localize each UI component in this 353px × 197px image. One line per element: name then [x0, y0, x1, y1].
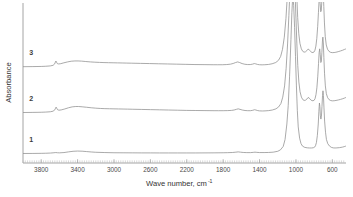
- curve-label-1: 1: [29, 136, 33, 143]
- spectrum-curve-2: [23, 0, 346, 113]
- x-axis-tick-label: 3400: [70, 166, 85, 173]
- x-axis-tick-label: 2200: [180, 166, 195, 173]
- x-axis-tick-label: 1000: [289, 166, 304, 173]
- spectrum-curve-1: [23, 0, 346, 153]
- x-axis-title-superscript: -1: [208, 178, 213, 184]
- x-axis-tick-label: 1800: [216, 166, 231, 173]
- x-axis-tick-label: 600: [327, 166, 338, 173]
- curve-labels-group: 321: [29, 49, 33, 143]
- y-axis-title-text: Absorbance: [4, 62, 13, 103]
- x-axis-title: Wave number, cm-1: [146, 178, 213, 188]
- ftir-spectrum-figure: 38003400300026002200180014001000600Wave …: [0, 0, 353, 197]
- x-axis-title-text: Wave number, cm: [146, 179, 207, 188]
- chart-canvas: 38003400300026002200180014001000600Wave …: [0, 0, 353, 197]
- curves-group: [23, 0, 346, 153]
- x-axis-tick-label: 2600: [143, 166, 158, 173]
- curve-label-2: 2: [29, 95, 33, 102]
- x-axis-tick-label: 3000: [107, 166, 122, 173]
- x-axis-tick-label: 3800: [34, 166, 49, 173]
- x-axis-tick-label: 1400: [252, 166, 267, 173]
- plot-area: 38003400300026002200180014001000600Wave …: [4, 0, 347, 188]
- curve-label-3: 3: [29, 49, 33, 56]
